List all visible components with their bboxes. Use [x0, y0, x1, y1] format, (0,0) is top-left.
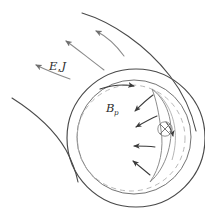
label-Bp-subscript: p — [114, 108, 119, 117]
outward-arrow-2 — [66, 41, 104, 70]
crescent-outer-arc — [154, 90, 175, 160]
crescent-arrow-3 — [134, 146, 155, 147]
diagram-canvas — [0, 0, 205, 222]
outward-arrow-3 — [96, 31, 124, 56]
crescent-arrow-1 — [135, 95, 153, 111]
outer-boundary-circle — [67, 69, 205, 207]
label-poloidal-field: Bp — [106, 101, 119, 115]
label-EJ-second: J — [61, 59, 66, 73]
poloidal-field-dashed-loop — [77, 85, 185, 191]
crescent-arrow-2 — [136, 116, 157, 127]
physics-diagram-figure: E,J Bp — [0, 0, 205, 222]
spiral-arm-lower-left — [12, 98, 78, 182]
crescent-arrow-4 — [133, 161, 150, 175]
inner-boundary-circle — [77, 80, 191, 194]
label-electric-field-current: E,J — [49, 59, 66, 73]
label-EJ-base: E — [49, 59, 58, 73]
